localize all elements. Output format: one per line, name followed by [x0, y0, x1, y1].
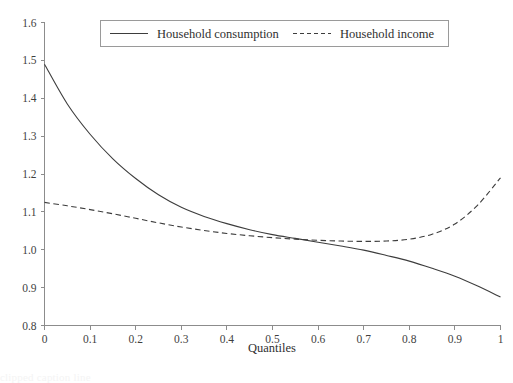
- series-group: [45, 64, 501, 297]
- series-household-income: [45, 178, 501, 242]
- x-tick-label: 0.2: [129, 333, 144, 345]
- y-tick-label: 1.5: [22, 54, 37, 66]
- y-tick-label: 1.3: [22, 130, 37, 142]
- y-tick-label: 1.4: [22, 92, 37, 104]
- x-tick-label: 0: [42, 333, 48, 345]
- series-household-consumption: [45, 64, 501, 297]
- quantile-line-chart: 0.80.91.01.11.21.31.41.51.6 00.10.20.30.…: [0, 0, 513, 383]
- x-tick-label: 0.1: [83, 333, 98, 345]
- y-tick-label: 1.0: [22, 244, 37, 256]
- y-tick-label: 1.1: [22, 206, 37, 218]
- legend-label-household-consumption: Household consumption: [157, 27, 280, 41]
- x-tick-label: 0.3: [174, 333, 189, 345]
- y-tick-label: 0.8: [22, 320, 37, 332]
- x-axis-title: Quantiles: [248, 341, 296, 355]
- chart-legend: Household consumption Household income: [101, 21, 449, 47]
- clipped-caption: clipped caption line: [0, 371, 513, 383]
- x-tick-label: 0.6: [311, 333, 326, 345]
- legend-label-household-income: Household income: [340, 27, 435, 41]
- y-tick-label: 0.9: [22, 282, 37, 294]
- x-tick-label: 0.8: [402, 333, 417, 345]
- x-tick-label: 0.9: [448, 333, 463, 345]
- y-tick-label: 1.2: [22, 168, 37, 180]
- x-tick-label: 0.7: [357, 333, 372, 345]
- axis-group: [45, 23, 501, 326]
- chart-figure: 0.80.91.01.11.21.31.41.51.6 00.10.20.30.…: [0, 0, 513, 383]
- y-tick-group: 0.80.91.01.11.21.31.41.51.6: [22, 17, 44, 332]
- y-tick-label: 1.6: [22, 17, 37, 29]
- x-tick-label: 0.4: [220, 333, 235, 345]
- x-tick-label: 1: [498, 333, 504, 345]
